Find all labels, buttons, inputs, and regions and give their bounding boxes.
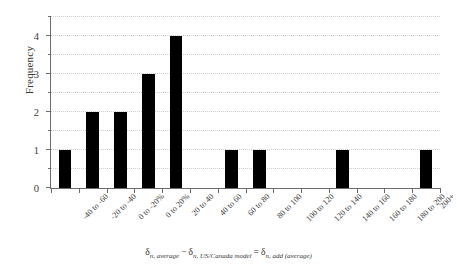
bar-slot <box>329 17 357 188</box>
x-axis-tick-label: 60 to 80 <box>246 192 272 218</box>
delta-subscript-3: n, add (average) <box>265 252 311 260</box>
bar-slot <box>273 17 301 188</box>
bar-slot <box>412 17 440 188</box>
y-axis-tick-label: 0 <box>34 183 39 194</box>
plot-area: 01234 <box>50 17 440 189</box>
y-axis-tick-label: 4 <box>34 31 39 42</box>
y-axis-tick-label: 3 <box>34 69 39 80</box>
x-axis-tick-label: -40 to -60 <box>81 192 111 222</box>
bar-slot <box>190 17 218 188</box>
x-axis-title: δn, average−δn, US/Canada model=δn, add … <box>0 247 457 260</box>
bar[interactable] <box>336 150 349 188</box>
bar[interactable] <box>86 112 99 188</box>
bar-slot <box>51 17 79 188</box>
histogram-chart: Frequency 01234 -40 to -60-20 to -400 to… <box>0 0 457 271</box>
bar[interactable] <box>225 150 238 188</box>
bar-slot <box>107 17 135 188</box>
bar-slot <box>301 17 329 188</box>
minus-operator: − <box>179 247 188 257</box>
x-axis-tick-label: 0 to 20% <box>163 192 191 220</box>
bars-layer <box>51 17 440 188</box>
bar[interactable] <box>170 36 183 188</box>
x-axis-tick-label: 160 to 180 <box>388 192 419 223</box>
bar-slot <box>79 17 107 188</box>
x-axis-tick-label: 100 to 120 <box>304 192 335 223</box>
bar-slot <box>384 17 412 188</box>
bar[interactable] <box>59 150 72 188</box>
x-axis-tick-label: 40 to 60 <box>218 192 244 218</box>
x-axis-tick-label: 140 to 160 <box>360 192 391 223</box>
y-axis-tick-label: 2 <box>34 107 39 118</box>
delta-subscript-2: n, US/Canada model <box>193 252 252 260</box>
bar-slot <box>357 17 385 188</box>
bar[interactable] <box>142 74 155 188</box>
x-axis-tick-label: 20 to 40 <box>190 192 216 218</box>
bar-slot <box>218 17 246 188</box>
x-axis-tick-label: 80 to 100 <box>275 192 304 221</box>
delta-subscript-1: n, average <box>150 252 180 260</box>
y-axis-tick-label: 1 <box>34 145 39 156</box>
bar[interactable] <box>253 150 266 188</box>
x-axis-tick-label: -20 to -40 <box>108 192 138 222</box>
bar-slot <box>162 17 190 188</box>
x-axis-tick-labels: -40 to -60-20 to -400 to -20%0 to 20%20 … <box>50 192 440 242</box>
bar[interactable] <box>420 150 433 188</box>
bar-slot <box>245 17 273 188</box>
x-axis-tick-label: 120 to 140 <box>332 192 363 223</box>
x-axis-tick-label: 0 to -20% <box>136 192 166 222</box>
bar[interactable] <box>114 112 127 188</box>
equals-operator: = <box>252 247 261 257</box>
bar-slot <box>134 17 162 188</box>
